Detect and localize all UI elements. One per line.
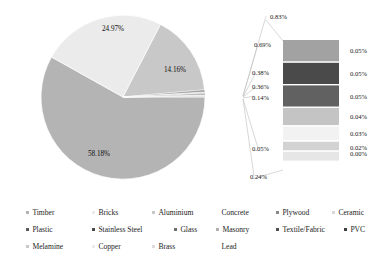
leader-label-036: 0.36%	[252, 83, 270, 90]
legend-label: Bricks	[98, 209, 118, 217]
legend-label: Stainless Steel	[98, 226, 142, 234]
legend-item-plastic[interactable]: Plastic	[26, 226, 92, 234]
legend-label: Ceramic	[338, 209, 364, 217]
legend-item-stainless-steel[interactable]: Stainless Steel	[92, 226, 174, 234]
legend-swatch-icon	[26, 211, 29, 214]
legend-swatch-icon	[276, 211, 279, 214]
legend-item-timber[interactable]: Timber	[26, 209, 92, 217]
bar-label-4: 0.04%	[350, 113, 368, 120]
legend-swatch-icon	[92, 245, 95, 248]
legend-label: Timber	[32, 209, 54, 217]
legend-label: Plastic	[32, 226, 52, 234]
legend-row-3: Melamine Copper Brass Lead	[26, 238, 370, 255]
bar-label-2: 0.05%	[350, 70, 368, 77]
legend-item-brass[interactable]: Brass	[152, 243, 215, 251]
legend-label: Masonry	[222, 226, 249, 234]
leader-label-024: 0.24%	[250, 173, 268, 180]
bar-segment-7	[283, 152, 339, 161]
legend-swatch-icon	[344, 228, 347, 231]
legend-item-lead[interactable]: Lead	[215, 243, 237, 251]
legend-item-bricks[interactable]: Bricks	[92, 209, 152, 217]
legend-swatch-icon	[215, 245, 218, 248]
legend-swatch-icon	[152, 211, 155, 214]
legend-row-2: Plastic Stainless Steel Glass Masonry Te…	[26, 221, 370, 238]
legend-item-plywood[interactable]: Plywood	[276, 209, 332, 217]
pie-label-25: 24.97%	[102, 25, 124, 33]
legend-label: Aluminium	[158, 209, 193, 217]
legend-label: Copper	[98, 243, 120, 251]
legend-item-glass[interactable]: Glass	[174, 226, 216, 234]
leader-label-005: 0.05%	[252, 145, 270, 152]
legend-swatch-icon	[92, 228, 95, 231]
pie-geometry	[41, 15, 205, 179]
bar-label-3: 0.05%	[350, 93, 368, 100]
legend-swatch-icon	[332, 211, 335, 214]
legend-label: Plywood	[282, 209, 309, 217]
bar-label-5: 0.03%	[350, 130, 368, 137]
chart-legend: Timber Bricks Aluminium Concrete Plywood…	[26, 204, 370, 255]
bar-label-7: 0.00%	[350, 150, 368, 157]
legend-swatch-icon	[215, 211, 218, 214]
bar-segment-1	[283, 40, 339, 62]
legend-swatch-icon	[26, 245, 29, 248]
legend-item-aluminium[interactable]: Aluminium	[152, 209, 215, 217]
legend-item-masonry[interactable]: Masonry	[216, 226, 276, 234]
legend-item-pvc[interactable]: PVC	[344, 226, 365, 234]
legend-swatch-icon	[92, 211, 95, 214]
pie-label-14: 14.16%	[164, 66, 186, 74]
secondary-bar-group	[283, 40, 339, 161]
leader-label-083: 0.83%	[270, 13, 288, 20]
bar-segment-2	[283, 63, 339, 85]
legend-label: Brass	[158, 243, 175, 251]
legend-label: Glass	[180, 226, 197, 234]
legend-swatch-icon	[174, 228, 177, 231]
leader-label-038: 0.38%	[252, 69, 270, 76]
legend-item-melamine[interactable]: Melamine	[26, 243, 92, 251]
legend-label: Concrete	[221, 209, 248, 217]
legend-item-ceramic[interactable]: Ceramic	[332, 209, 364, 217]
pie-label-58: 58.18%	[88, 150, 110, 158]
bar-segment-4	[283, 108, 339, 126]
leader-label-069: 0.69%	[254, 41, 272, 48]
legend-swatch-icon	[216, 228, 219, 231]
legend-label: PVC	[350, 226, 365, 234]
legend-swatch-icon	[276, 228, 279, 231]
leader-label-014: 0.14%	[252, 94, 270, 101]
legend-label: Textile/Fabric	[282, 226, 325, 234]
legend-item-concrete[interactable]: Concrete	[215, 209, 276, 217]
legend-swatch-icon	[152, 245, 155, 248]
legend-row-1: Timber Bricks Aluminium Concrete Plywood…	[26, 204, 370, 221]
bar-segment-5	[283, 126, 339, 140]
legend-item-copper[interactable]: Copper	[92, 243, 152, 251]
bar-segment-3	[283, 85, 339, 107]
legend-item-textile-fabric[interactable]: Textile/Fabric	[276, 226, 344, 234]
legend-label: Lead	[221, 243, 236, 251]
bar-label-1: 0.05%	[350, 47, 368, 54]
legend-label: Melamine	[32, 243, 63, 251]
bar-segment-6	[283, 142, 339, 151]
bar-of-pie-chart: 58.18% 24.97% 14.16% 0.83% 0.69% 0.38% 0…	[0, 0, 389, 275]
legend-swatch-icon	[26, 228, 29, 231]
